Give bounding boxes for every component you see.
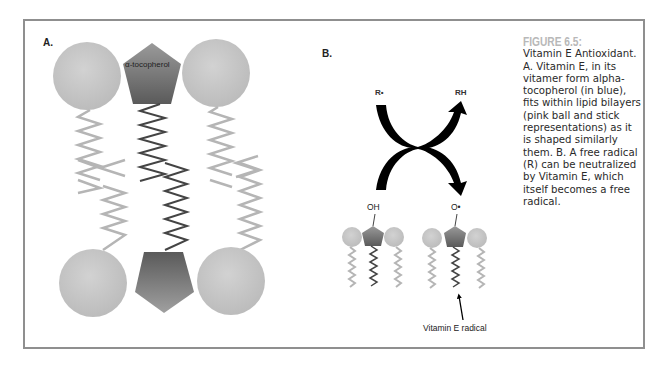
tocopherol-head-icon bbox=[123, 43, 181, 104]
caption-title: FIGURE 6.5: bbox=[523, 36, 625, 48]
caption-text: Vitamin E Antioxidant. A. Vitamin E, in … bbox=[523, 48, 641, 207]
lipid-head-icon bbox=[59, 249, 127, 317]
membrane-left bbox=[342, 214, 404, 287]
lipid-head-icon bbox=[53, 42, 121, 110]
pointer-arrow-icon bbox=[459, 296, 463, 320]
reaction-arrows-icon bbox=[376, 101, 467, 196]
reactant-label: R• bbox=[375, 88, 384, 97]
hydroxyl-label: OH bbox=[367, 202, 380, 212]
membrane-right bbox=[422, 214, 487, 320]
product-label: RH bbox=[455, 88, 467, 97]
tocopherol-head-icon bbox=[135, 252, 194, 313]
bilayer-bottom-leaflet bbox=[59, 163, 265, 317]
oxygen-radical-label: O• bbox=[451, 202, 461, 212]
lipid-head-icon bbox=[197, 247, 265, 315]
alpha-tocopherol-label: α-tocopherol bbox=[125, 60, 170, 69]
figure-caption: FIGURE 6.5: Vitamin E Antioxidant. A. Vi… bbox=[523, 36, 643, 208]
vitamin-e-radical-label: Vitamin E radical bbox=[423, 323, 487, 333]
lipid-head-icon bbox=[182, 39, 250, 107]
